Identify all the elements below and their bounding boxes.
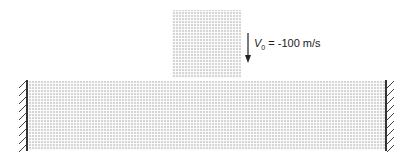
velocity-value: = -100 m/s bbox=[265, 37, 320, 49]
down-arrow-icon bbox=[243, 33, 253, 63]
projectile-mesh bbox=[172, 10, 241, 78]
target-mesh bbox=[28, 81, 385, 150]
left-hatch-icon bbox=[17, 80, 27, 152]
velocity-label: V0 = -100 m/s bbox=[254, 37, 321, 51]
right-hatch-icon bbox=[387, 80, 397, 152]
